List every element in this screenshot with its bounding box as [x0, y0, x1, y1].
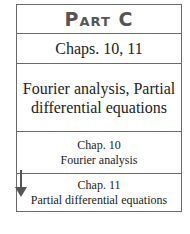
chapter-10-row: Chap. 10 Fourier analysis [17, 132, 181, 174]
part-title-row: Part C [17, 5, 181, 34]
chapters-row: Chaps. 10, 11 [17, 34, 181, 64]
chapters-label: Chaps. 10, 11 [55, 40, 142, 58]
part-title: Part C [65, 8, 134, 30]
chapter-11-row: Chap. 11 Partial differential equations [17, 174, 181, 212]
chapter-title: Partial differential equations [31, 193, 167, 208]
topics-label: Fourier analysis, Partial differential e… [17, 79, 181, 117]
chapter-number: Chap. 10 [77, 138, 120, 153]
arrow-down-icon [15, 170, 27, 198]
topics-row: Fourier analysis, Partial differential e… [17, 64, 181, 132]
chapter-title: Fourier analysis [61, 153, 138, 168]
chapter-number: Chap. 11 [78, 178, 121, 193]
part-c-box: Part C Chaps. 10, 11 Fourier analysis, P… [16, 4, 182, 212]
